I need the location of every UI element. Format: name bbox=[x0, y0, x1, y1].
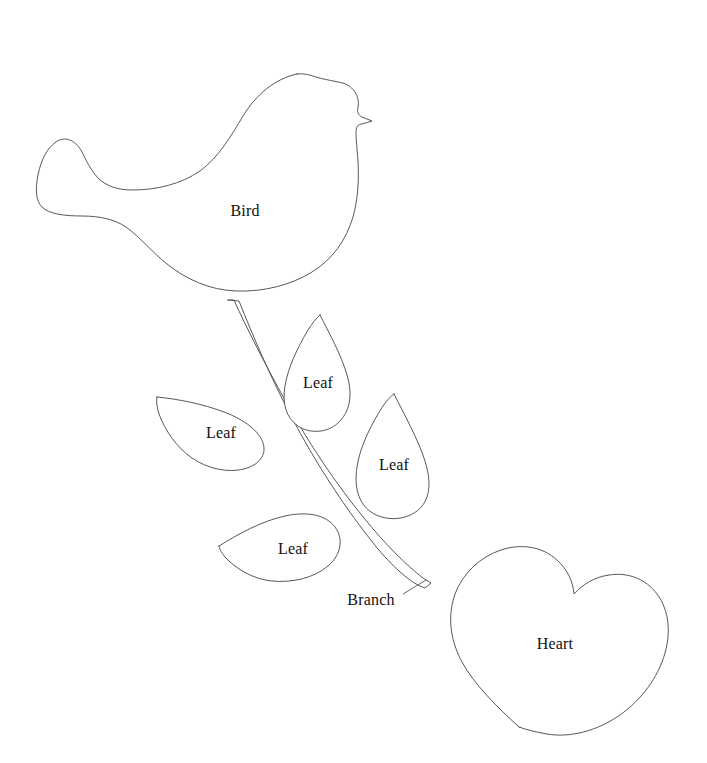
piece-label-heart: Heart bbox=[537, 635, 574, 653]
piece-label-leaf-bottom: Leaf bbox=[278, 540, 308, 558]
piece-label-leaf-left: Leaf bbox=[206, 424, 236, 442]
pattern-shapes-canvas bbox=[0, 0, 707, 763]
piece-label-branch: Branch bbox=[347, 591, 394, 609]
piece-label-leaf-right: Leaf bbox=[379, 456, 409, 474]
pattern-sheet: Bird Leaf Leaf Leaf Leaf Branch Heart bbox=[0, 0, 707, 763]
bird-shape-icon[interactable] bbox=[36, 74, 372, 291]
piece-label-leaf-top: Leaf bbox=[303, 374, 333, 392]
piece-label-bird: Bird bbox=[230, 202, 259, 220]
